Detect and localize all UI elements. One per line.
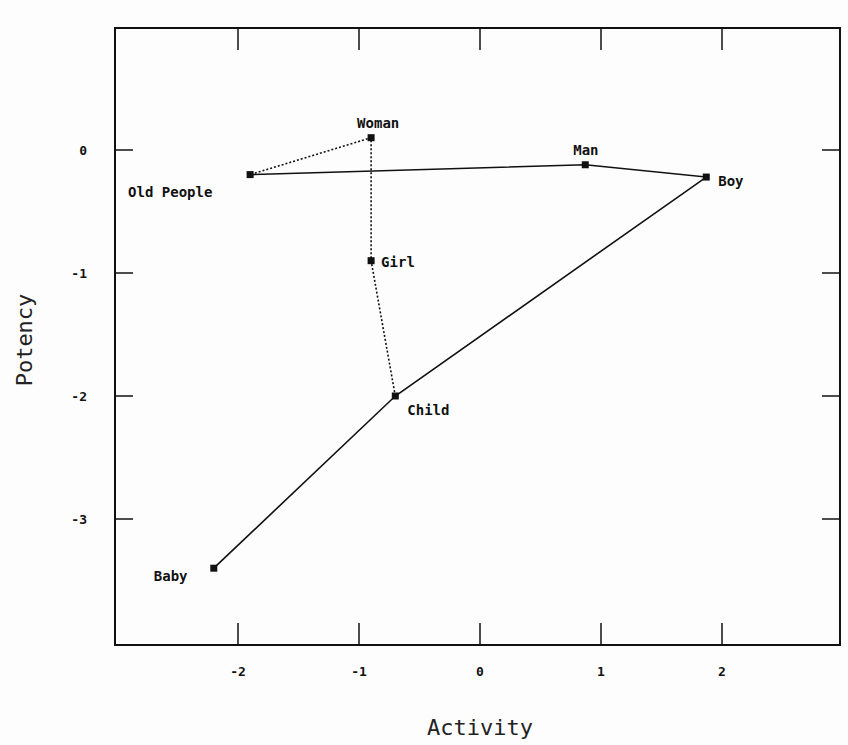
y-tick-label: -2	[71, 389, 87, 404]
data-point-marker	[582, 161, 589, 168]
x-tick-label: 1	[597, 664, 605, 679]
x-tick-label: -2	[230, 664, 246, 679]
y-tick-label: 0	[79, 143, 87, 158]
x-tick-label: 0	[476, 664, 484, 679]
x-tick-label: 2	[718, 664, 726, 679]
series-lines	[214, 138, 706, 569]
x-axis-title: Activity	[427, 715, 533, 740]
data-point-marker	[368, 134, 375, 141]
data-point-marker	[368, 257, 375, 264]
data-point-marker	[392, 393, 399, 400]
chart: -2-10120-1-2-3 Old PeopleWomanManBoyGirl…	[0, 0, 848, 745]
dotted-series-line	[250, 138, 395, 396]
plot-frame	[115, 28, 840, 645]
y-axis-title: Potency	[12, 294, 37, 387]
x-tick-label: -1	[351, 664, 367, 679]
data-point-marker	[247, 171, 254, 178]
data-point-label: Baby	[154, 568, 188, 584]
data-point-marker	[703, 174, 710, 181]
data-point-marker	[210, 565, 217, 572]
y-tick-label: -3	[71, 512, 87, 527]
data-point-label: Old People	[128, 184, 212, 200]
solid-series-line	[214, 165, 706, 568]
y-tick-label: -1	[71, 266, 87, 281]
data-point-label: Child	[407, 402, 449, 418]
data-point-label: Woman	[357, 115, 399, 131]
data-point-label: Boy	[718, 173, 744, 189]
data-points: Old PeopleWomanManBoyGirlChildBaby	[128, 115, 744, 585]
data-point-label: Man	[573, 142, 598, 158]
plot-border	[115, 28, 840, 645]
data-point-label: Girl	[381, 254, 415, 270]
